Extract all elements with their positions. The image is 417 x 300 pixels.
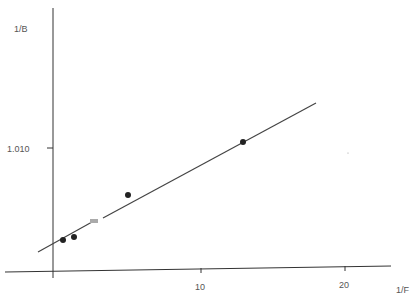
chart: 1/B 1.010 10 20 1/F xyxy=(0,0,417,300)
y-axis-label: 1/B xyxy=(14,24,28,34)
smudge-mark xyxy=(90,219,98,223)
data-point xyxy=(240,139,246,145)
x-axis xyxy=(5,266,391,272)
speck xyxy=(347,152,348,153)
x-tick-label-10: 10 xyxy=(195,282,205,292)
fit-line xyxy=(38,222,92,252)
fit-line xyxy=(103,103,316,218)
data-point xyxy=(60,237,66,243)
data-point xyxy=(125,192,131,198)
x-tick-label-20: 20 xyxy=(339,280,349,290)
data-point xyxy=(71,234,77,240)
y-tick-label-1010: 1.010 xyxy=(7,144,30,154)
x-axis-label: 1/F xyxy=(396,285,410,295)
